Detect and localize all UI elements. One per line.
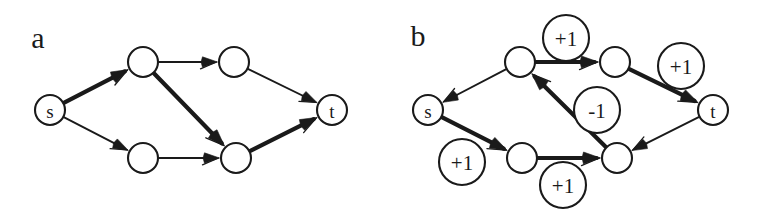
graph-node: s — [35, 95, 65, 125]
edge-label-text: +1 — [451, 151, 473, 175]
graph-node — [600, 47, 630, 77]
edge-label-text: -1 — [588, 99, 606, 123]
node-circle-v3 — [128, 143, 158, 173]
graph-node — [507, 143, 537, 173]
graph-node — [602, 143, 632, 173]
graph-edge — [154, 73, 224, 146]
edge-label-text: +1 — [552, 174, 574, 198]
graph-node: t — [317, 95, 347, 125]
edge-label-text: +1 — [555, 27, 577, 51]
edge-label-badge: +1 — [543, 15, 589, 61]
edge-label-badge: -1 — [574, 87, 620, 133]
graph-node — [128, 47, 158, 77]
edge-label-badge: +1 — [658, 43, 704, 89]
panel-letter-a: a — [31, 21, 44, 54]
graph-node — [221, 143, 251, 173]
graph-edge — [64, 70, 128, 103]
node-label-s: s — [424, 101, 431, 122]
edge-arrowhead — [680, 90, 698, 103]
node-circle-v2 — [600, 47, 630, 77]
figure-container: sta +1+1-1+1+1stb — [0, 0, 758, 216]
graph-node: t — [698, 95, 728, 125]
node-label-s: s — [46, 101, 53, 122]
graph-edge — [248, 69, 317, 103]
panel-b: +1+1-1+1+1stb — [411, 15, 729, 208]
graph-diagram-svg: sta +1+1-1+1+1stb — [0, 0, 758, 216]
node-circle-v4 — [221, 143, 251, 173]
graph-node — [219, 47, 249, 77]
graph-edge — [443, 69, 506, 102]
graph-node — [128, 143, 158, 173]
graph-node: s — [413, 95, 443, 125]
node-circle-v1 — [128, 47, 158, 77]
node-label-t: t — [329, 101, 335, 122]
edge-label-text: +1 — [670, 55, 692, 79]
edge-label-badge: +1 — [540, 162, 586, 208]
panel-a: sta — [31, 21, 347, 174]
graph-edge — [159, 57, 218, 69]
graph-edge — [250, 117, 317, 150]
edge-arrowhead — [580, 56, 599, 68]
edge-label-badge: +1 — [439, 139, 485, 185]
edge-arrowhead — [582, 152, 601, 164]
graph-node — [505, 47, 535, 77]
node-circle-v2 — [219, 47, 249, 77]
panel-letter-b: b — [411, 19, 426, 52]
graph-edge — [632, 117, 699, 150]
graph-edge — [64, 117, 128, 150]
node-circle-v1 — [505, 47, 535, 77]
node-circle-v4 — [602, 143, 632, 173]
graph-edge — [159, 153, 220, 165]
node-circle-v3 — [507, 143, 537, 173]
node-label-t: t — [710, 101, 716, 122]
